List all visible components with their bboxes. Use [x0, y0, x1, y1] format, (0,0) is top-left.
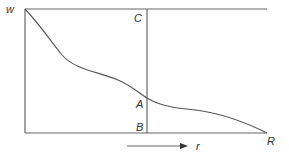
- label-w: w: [6, 3, 15, 15]
- label-a: A: [135, 98, 143, 110]
- label-r-upper: R: [267, 135, 275, 147]
- profile-curve: [25, 9, 267, 133]
- label-r-lower: r: [196, 140, 201, 152]
- label-c: C: [134, 12, 142, 24]
- arrow-right-icon: [180, 143, 188, 149]
- label-b: B: [136, 121, 143, 133]
- diagram-canvas: w C A B R r: [0, 0, 289, 159]
